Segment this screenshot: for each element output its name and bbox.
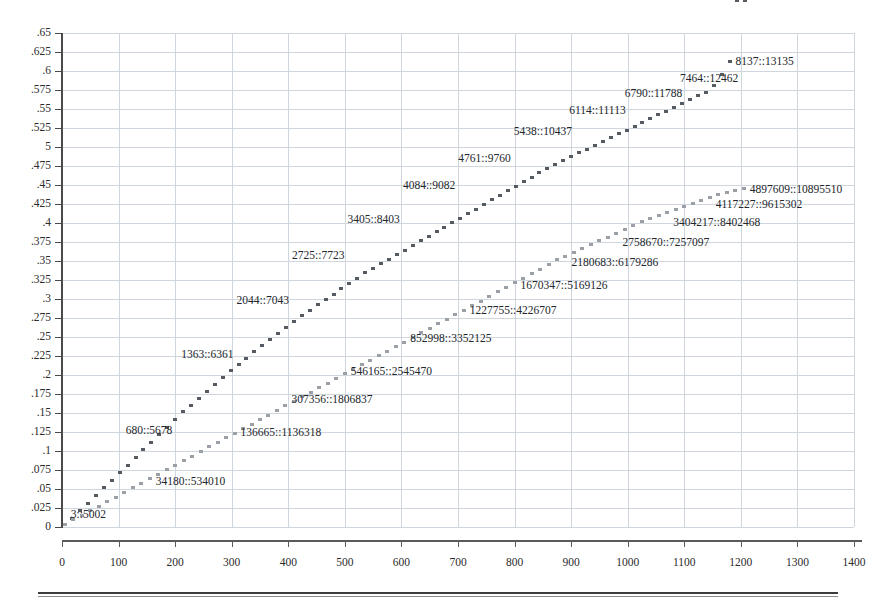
y-tick-mark <box>55 337 63 338</box>
data-point-marker <box>308 309 312 312</box>
data-point-marker <box>696 94 700 97</box>
data-point-marker <box>716 193 720 196</box>
gridline-vertical <box>797 33 798 527</box>
y-tick-mark <box>55 489 63 490</box>
gridline-vertical <box>741 33 742 527</box>
x-tick-mark <box>571 540 572 547</box>
data-point-marker <box>395 253 399 256</box>
data-point-marker <box>623 228 627 231</box>
data-point-marker <box>545 167 549 170</box>
data-point-marker <box>553 163 557 166</box>
x-tick-mark <box>232 540 233 547</box>
data-point-marker <box>589 243 593 246</box>
y-tick-mark <box>55 527 63 528</box>
data-point-marker <box>522 180 526 183</box>
data-point-marker <box>394 345 398 348</box>
data-point-marker <box>530 176 534 179</box>
data-point-marker <box>458 217 462 220</box>
data-point-marker <box>530 272 534 275</box>
gridline-vertical <box>345 33 346 527</box>
data-point-marker <box>173 418 177 421</box>
y-tick-mark <box>55 413 63 414</box>
gridline-vertical <box>232 33 233 527</box>
scatter-chart: 0.025.05.075.1.125.15.175.2.225.25.275.3… <box>0 0 877 601</box>
data-point-marker <box>189 404 193 407</box>
data-point-marker <box>498 194 502 197</box>
data-point-marker <box>664 110 668 113</box>
gridline-vertical <box>458 33 459 527</box>
gridline-vertical <box>628 33 629 527</box>
data-point-marker <box>606 236 610 239</box>
data-point-marker <box>725 191 729 194</box>
data-point-marker <box>601 140 605 143</box>
data-point-marker <box>371 267 375 270</box>
x-tick-label: 1100 <box>664 556 704 568</box>
data-point-marker <box>173 464 177 467</box>
data-point-marker <box>656 113 660 116</box>
data-point-marker <box>742 187 746 190</box>
y-tick-label: .55 <box>37 103 51 114</box>
y-tick-label: .025 <box>31 502 51 513</box>
data-point-marker <box>504 286 508 289</box>
data-point-marker <box>244 357 248 360</box>
data-point-marker <box>260 344 264 347</box>
data-point-marker <box>482 203 486 206</box>
data-point-label: 1227755::4226707 <box>470 304 557 316</box>
data-point-marker <box>538 268 542 271</box>
data-point-marker <box>585 148 589 151</box>
data-point-label: 34180::534010 <box>156 475 226 487</box>
data-point-marker <box>625 129 629 132</box>
data-point-marker <box>139 482 143 485</box>
x-tick-mark <box>288 540 289 547</box>
data-point-marker <box>712 84 716 87</box>
data-point-marker <box>355 277 359 280</box>
x-tick-mark <box>797 540 798 547</box>
y-tick-label: .625 <box>31 46 51 57</box>
y-tick-label: .575 <box>31 84 51 95</box>
x-tick-mark <box>401 540 402 547</box>
data-point-marker <box>237 363 241 366</box>
data-point-marker <box>118 471 122 474</box>
y-tick-mark <box>55 375 63 376</box>
y-tick-label: .525 <box>31 122 51 133</box>
gridline-vertical <box>515 33 516 527</box>
data-point-marker <box>275 409 279 412</box>
y-tick-mark <box>55 147 63 148</box>
data-point-marker <box>514 185 518 188</box>
data-point-marker <box>435 230 439 233</box>
data-point-marker <box>363 271 367 274</box>
data-point-marker <box>728 60 732 63</box>
data-point-label: 307356::1806837 <box>291 393 372 405</box>
data-point-label: 680::5678 <box>126 424 173 436</box>
data-point-label: 7464::12462 <box>680 72 738 84</box>
data-point-marker <box>419 239 423 242</box>
data-point-marker <box>268 338 272 341</box>
data-point-marker <box>207 445 211 448</box>
x-tick-label: 1000 <box>608 556 648 568</box>
data-point-marker <box>114 496 118 499</box>
data-point-marker <box>339 287 343 290</box>
data-point-marker <box>427 235 431 238</box>
data-point-marker <box>216 441 220 444</box>
data-point-label: 3::5002 <box>71 508 106 520</box>
data-point-marker <box>735 0 739 2</box>
y-tick-mark <box>55 318 63 319</box>
data-point-marker <box>276 332 280 335</box>
data-point-marker <box>292 320 296 323</box>
data-point-marker <box>691 202 695 205</box>
gridline-vertical <box>684 33 685 527</box>
x-tick-mark <box>854 540 855 547</box>
x-tick-mark <box>684 540 685 547</box>
x-tick-mark <box>345 540 346 547</box>
y-tick-label: .45 <box>37 179 51 190</box>
data-point-marker <box>148 477 152 480</box>
y-tick-mark <box>55 508 63 509</box>
y-tick-mark <box>55 280 63 281</box>
y-tick-label: .3 <box>42 293 51 304</box>
data-point-marker <box>597 239 601 242</box>
y-tick-label: .375 <box>31 236 51 247</box>
y-tick-mark <box>55 90 63 91</box>
x-tick-label: 200 <box>155 556 195 568</box>
y-tick-mark <box>55 52 63 53</box>
y-tick-mark <box>55 356 63 357</box>
